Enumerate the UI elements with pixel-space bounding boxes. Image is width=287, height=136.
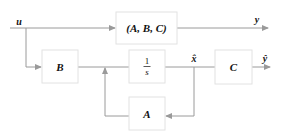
b-block: B	[42, 50, 78, 83]
c-label: C	[230, 61, 238, 73]
plant-block: (A, B, C)	[116, 12, 177, 44]
state-estimate-label: x̂	[191, 53, 197, 64]
plant-label: (A, B, C)	[126, 22, 166, 35]
integrator-numerator: 1	[145, 56, 150, 66]
output-y-label: y	[254, 14, 260, 25]
a-feedback-line	[105, 68, 129, 116]
block-diagram: (A, B, C) B 1 s C A u y x̂ ŷ	[0, 0, 287, 136]
c-block: C	[215, 50, 252, 84]
b-label: B	[55, 61, 63, 73]
feedback-to-a-line	[166, 67, 194, 116]
integrator-denominator: s	[145, 67, 149, 77]
integrator-block: 1 s	[129, 50, 165, 83]
a-block: A	[129, 97, 165, 130]
a-label: A	[142, 108, 150, 120]
output-estimate-label: ŷ	[262, 53, 268, 64]
input-u-label: u	[16, 16, 22, 27]
input-branch-line	[26, 28, 41, 67]
